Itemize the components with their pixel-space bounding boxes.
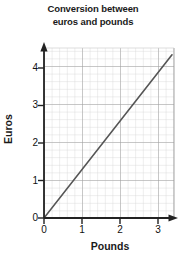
conversion-chart: Conversion between euros and pounds Euro… — [0, 0, 186, 258]
plot-area — [0, 0, 186, 258]
